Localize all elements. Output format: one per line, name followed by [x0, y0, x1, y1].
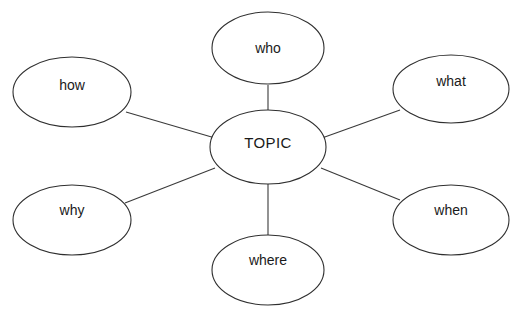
connector-topic-when	[321, 168, 400, 200]
node-label-who: who	[254, 40, 281, 56]
node-label-where: where	[248, 252, 287, 268]
node-when[interactable]: when	[393, 185, 509, 255]
node-shape-why[interactable]	[13, 185, 131, 255]
node-label-topic: TOPIC	[244, 134, 292, 151]
node-why[interactable]: why	[13, 185, 131, 255]
node-how[interactable]: how	[13, 57, 131, 127]
diagram-page: { "diagram": { "type": "bubble-concept-m…	[0, 0, 517, 318]
node-shape-where[interactable]	[212, 235, 324, 305]
node-shape-what[interactable]	[393, 55, 509, 123]
node-topic[interactable]: TOPIC	[210, 110, 326, 184]
connector-topic-what	[322, 110, 400, 138]
node-where[interactable]: where	[212, 235, 324, 305]
node-label-when: when	[433, 202, 467, 218]
node-what[interactable]: what	[393, 55, 509, 123]
node-label-what: what	[435, 73, 466, 89]
node-label-why: why	[59, 202, 85, 218]
connector-topic-why	[125, 168, 215, 203]
concept-map-canvas: who what when where why how TOPIC	[0, 0, 517, 318]
node-label-how: how	[59, 77, 86, 93]
node-who[interactable]: who	[212, 12, 324, 84]
connector-topic-how	[126, 112, 215, 138]
node-shape-when[interactable]	[393, 185, 509, 255]
